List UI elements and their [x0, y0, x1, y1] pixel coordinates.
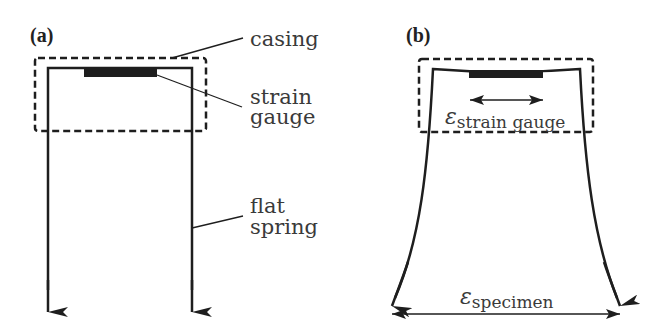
arrow-spring-left	[392, 262, 408, 306]
strain-gauge-label-line2: gauge	[250, 105, 315, 129]
strain-gauge-leader-line	[157, 75, 242, 107]
panel-b: (b) εstrain gauge εspecimen	[392, 24, 620, 314]
panel-b-label: (b)	[406, 24, 430, 47]
specimen-subscript: specimen	[472, 292, 554, 312]
diagram-canvas: (a) casing strain gauge flat spring (b)	[0, 0, 646, 333]
epsilon-specimen-label: εspecimen	[460, 284, 554, 312]
flat-spring-label-line2: spring	[250, 215, 318, 239]
arrow-spring-right	[604, 262, 620, 306]
flat-spring-a	[48, 68, 192, 290]
flat-spring-leader-line	[192, 216, 243, 228]
strain-gauge-b	[469, 70, 543, 78]
casing-leader-line	[172, 38, 243, 58]
epsilon-symbol: ε	[445, 104, 457, 129]
strain-gauge-a	[84, 69, 157, 77]
strain-gauge-subscript: strain gauge	[457, 112, 566, 132]
epsilon-symbol-specimen: ε	[460, 284, 472, 309]
flat-spring-b-deformed	[395, 69, 617, 298]
casing-label: casing	[250, 27, 319, 51]
panel-a-label: (a)	[30, 24, 53, 47]
panel-a: (a) casing strain gauge flat spring	[30, 24, 319, 312]
epsilon-strain-gauge-label: εstrain gauge	[445, 104, 565, 132]
